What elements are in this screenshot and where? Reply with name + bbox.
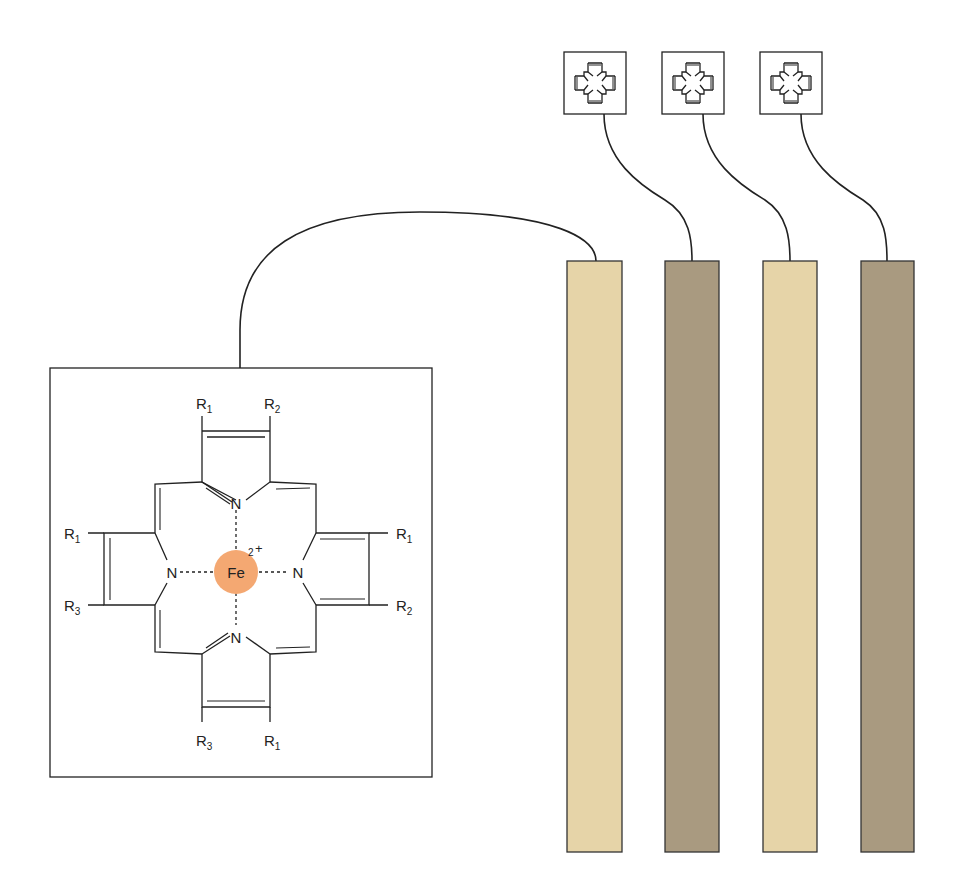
iron-label: Fe: [227, 564, 245, 581]
mini-porphyrin-box-2: [662, 52, 724, 114]
iron-charge: 2: [248, 547, 254, 558]
nitrogen-bottom: N: [231, 629, 242, 646]
iron-charge-sign: +: [255, 541, 263, 556]
linker-curve-main: [240, 212, 596, 368]
nitrogen-top: N: [231, 495, 242, 512]
linker-curve-1: [604, 114, 692, 261]
mini-porphyrin-box-1: [564, 52, 626, 114]
strip-1: [567, 261, 622, 852]
linker-curve-2: [703, 114, 790, 261]
nitrogen-right: N: [293, 564, 304, 581]
nitrogen-left: N: [167, 564, 178, 581]
diagram-canvas: Fe 2 + N N N N R1 R2 R1 R3 R1 R2 R3 R1: [0, 0, 964, 893]
strip-3: [763, 261, 817, 852]
strip-4: [861, 261, 914, 852]
strip-2: [665, 261, 719, 852]
mini-porphyrin-box-3: [760, 52, 822, 114]
linker-curve-3: [801, 114, 887, 261]
